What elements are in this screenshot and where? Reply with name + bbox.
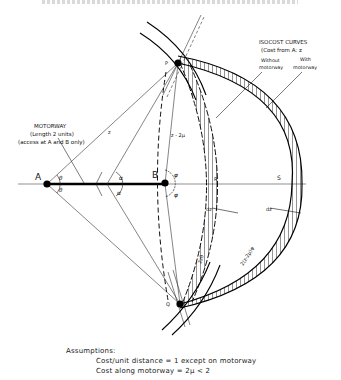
point-A: [43, 180, 50, 187]
label-z: z: [108, 129, 111, 135]
isocost-subtitle: (Cost from A: z: [261, 47, 302, 53]
label-phi-upper: φ: [174, 171, 178, 179]
motorway-isocost-diagram: A B P Q R S θ θ α α φ φ z z - 2μ dz dz 2…: [0, 0, 341, 380]
label-theta-upper: θ: [59, 175, 63, 181]
label-S: S: [277, 174, 281, 181]
label-A: A: [35, 172, 42, 182]
label-Q: Q: [166, 301, 170, 307]
assumption-line-2: Cost along motorway = 2μ < 2: [66, 366, 256, 376]
isocost-without-2: motorway: [259, 65, 283, 70]
label-P: P: [165, 60, 168, 66]
label-phi-lower: φ: [174, 191, 178, 199]
point-Q: [176, 300, 183, 307]
label-dz-outer: dz: [266, 206, 272, 212]
isocost-title: ISOCOST CURVES: [259, 39, 308, 45]
label-theta-lower: θ: [59, 187, 63, 193]
motorway-note-line2: (Length 2 units): [30, 131, 74, 138]
label-R: R: [214, 176, 218, 182]
isocost-with-1: With: [300, 57, 311, 62]
label-2-z-minus-2mu-phi: 2(z-2μ)φ: [239, 245, 257, 267]
label-alpha-upper: α: [119, 174, 123, 181]
assumptions-heading: Assumptions:: [66, 346, 256, 356]
label-z-minus-2mu: z - 2μ: [171, 132, 186, 139]
hatched-band-without-motorway: [180, 63, 218, 304]
point-P: [174, 59, 181, 66]
guide-line-lower-2: [168, 272, 185, 327]
label-dz-inner: dz: [206, 206, 212, 212]
label-B: B: [152, 170, 158, 180]
line-alpha-P: [107, 63, 178, 184]
motorway-note-line1: MOTORWAY: [34, 123, 67, 129]
motorway-note-line3: (access at A and B only): [18, 139, 85, 146]
line-A-P: [47, 63, 178, 184]
with-motorway-leader: [266, 72, 302, 108]
isocost-with-2: motorway: [293, 65, 317, 70]
point-B: [161, 179, 168, 186]
assumption-line-1: Cost/unit distance = 1 except on motorwa…: [66, 356, 256, 366]
label-alpha-lower: α: [117, 189, 121, 196]
line-B-P: [165, 63, 178, 184]
line-alpha-Q: [107, 184, 180, 304]
assumptions-block: Assumptions: Cost/unit distance = 1 exce…: [66, 346, 256, 376]
isocost-without-1: Without: [261, 58, 280, 63]
